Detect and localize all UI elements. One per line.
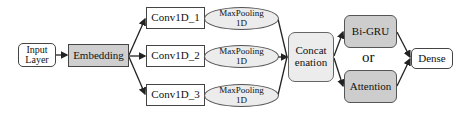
maxpooling-3-node: MaxPooling 1D [204,84,279,107]
or-label: or [362,49,375,66]
input-layer-label-line2: Layer [25,55,48,66]
attention-label: Attention [350,81,392,93]
embedding-label: Embedding [73,50,124,62]
concatenation-line2: enation [295,57,327,69]
edge-pool3-concat [278,57,287,95]
attention-node: Attention [344,70,397,103]
bi-gru-label: Bi-GRU [352,26,389,38]
maxpooling-3-line2: 1D [236,96,247,105]
conv1d-1-node: Conv1D_1 [146,7,205,29]
maxpooling-1-node: MaxPooling 1D [204,7,279,30]
input-layer-node: Input Layer [18,43,56,67]
maxpooling-2-line2: 1D [236,57,247,66]
embedding-node: Embedding [68,44,129,67]
conv1d-1-label: Conv1D_1 [151,12,199,24]
dense-node: Dense [411,48,453,69]
edge-attention-dense [397,59,410,86]
conv1d-3-label: Conv1D_3 [151,89,199,101]
conv1d-2-node: Conv1D_2 [146,45,205,67]
edge-bigru-dense [397,32,410,57]
dense-label: Dense [418,53,446,65]
maxpooling-2-node: MaxPooling 1D [204,45,279,68]
bi-gru-node: Bi-GRU [344,15,397,48]
concatenation-node: Concat enation [288,32,334,82]
edge-embedding-conv1 [129,19,145,55]
maxpooling-1-line2: 1D [236,19,247,28]
edge-concat-bigru [334,32,343,56]
conv1d-2-label: Conv1D_2 [151,50,199,62]
conv1d-3-node: Conv1D_3 [146,84,205,106]
edge-concat-attention [334,58,343,86]
edge-pool1-concat [278,19,287,57]
edge-embedding-conv3 [129,57,145,94]
